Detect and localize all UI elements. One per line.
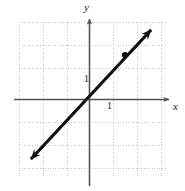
point-marker [122,52,128,58]
x-axis-tick-label-1: 1 [107,101,112,111]
x-axis-label: x [173,101,178,112]
line-segment-reverse [31,30,151,159]
coordinate-plane-svg [0,0,185,191]
graph-figure: y x 1 1 [0,0,185,191]
plotted-line [31,30,151,159]
axes [14,19,169,186]
y-axis-tick-label-1: 1 [84,74,89,84]
y-axis-label: y [84,2,89,13]
